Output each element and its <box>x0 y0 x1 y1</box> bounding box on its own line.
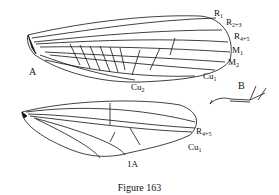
label-r4-5: R4+5 <box>234 32 249 42</box>
hindwing-drawing <box>22 101 197 158</box>
label-m1: M1 <box>232 46 243 56</box>
panel-label-a: A <box>29 66 36 77</box>
panel-label-b: B <box>238 80 245 91</box>
label-m2: M2 <box>228 58 239 68</box>
label-hind-1a: 1A <box>127 160 138 169</box>
label-cu1: Cu1 <box>203 72 217 82</box>
label-r2-3: R2+3 <box>226 18 241 28</box>
label-hind-cu1: Cu1 <box>188 143 202 153</box>
figure-caption: Figure 163 <box>0 182 279 193</box>
label-hind-r4-5: R4+5 <box>196 127 211 137</box>
wing-venation-figure: R1 R2+3 R4+5 M1 M2 Cu1 Cu2 A B R4+5 Cu1 … <box>0 0 279 195</box>
label-cu2: Cu2 <box>131 83 145 93</box>
forewing-drawing <box>27 16 231 82</box>
wing-drawings <box>0 0 279 195</box>
label-r1: R1 <box>214 9 223 19</box>
